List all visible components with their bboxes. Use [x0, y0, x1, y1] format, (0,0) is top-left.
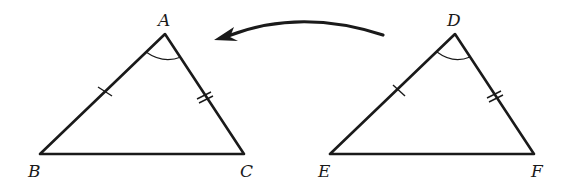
vertex-label-b: B: [27, 161, 41, 181]
triangle-abc-outline: [40, 34, 244, 154]
vertex-label-d: D: [446, 10, 461, 30]
vertex-label-f: F: [530, 161, 544, 181]
mapping-arrow: [214, 22, 383, 41]
angle-d-arc: [437, 52, 470, 60]
vertex-label-c: C: [240, 161, 253, 181]
congruent-triangles-diagram: A B C D E F: [0, 0, 566, 184]
angle-a-arc: [146, 52, 181, 60]
triangle-def-outline: [330, 34, 534, 154]
arrow-curve: [228, 22, 383, 36]
triangle-def: D E F: [317, 10, 544, 181]
triangle-abc: A B C: [27, 10, 253, 181]
vertex-label-e: E: [317, 161, 331, 181]
vertex-label-a: A: [156, 10, 170, 30]
